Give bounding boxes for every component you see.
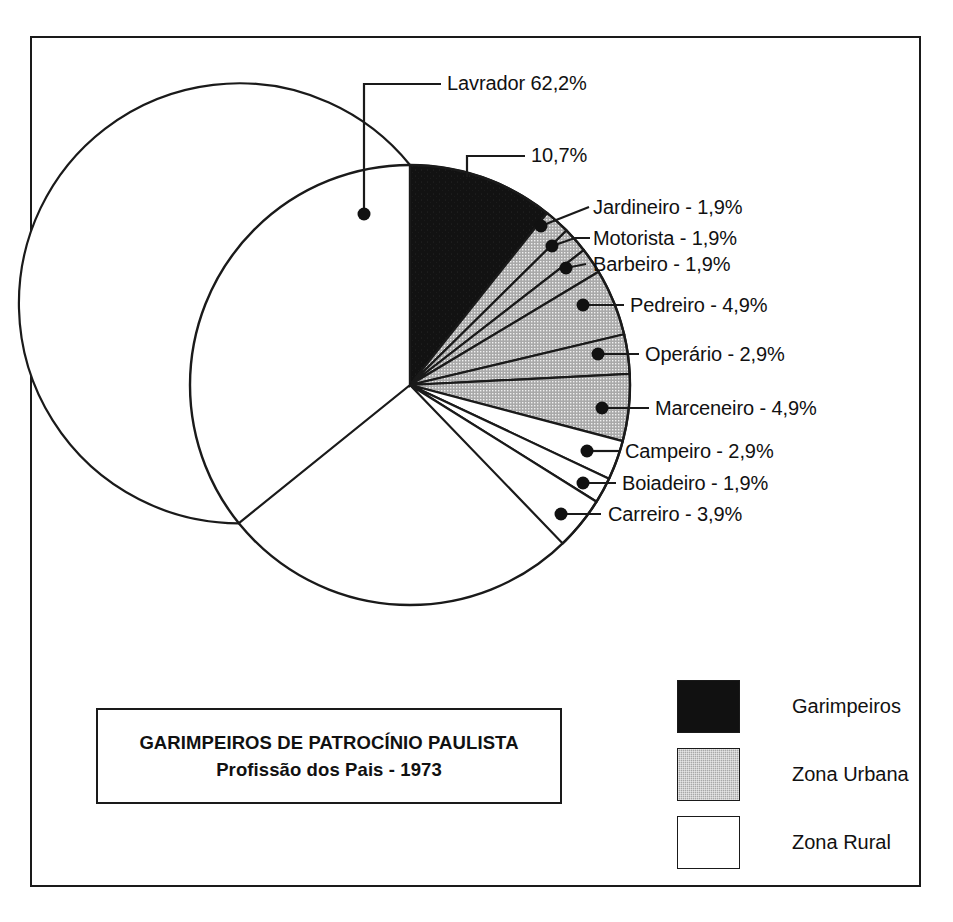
dot-boiadeiro bbox=[577, 477, 590, 490]
label-jardineiro: Jardineiro - 1,9% bbox=[593, 196, 742, 219]
legend-swatch-zona-urbana bbox=[677, 748, 740, 801]
label-lavrador: Lavrador 62,2% bbox=[447, 72, 587, 95]
legend: Garimpeiros Zona Urbana Zona Rural bbox=[677, 672, 909, 876]
dot-operario bbox=[592, 348, 605, 361]
legend-label-garimpeiros: Garimpeiros bbox=[792, 695, 901, 718]
label-pedreiro: Pedreiro - 4,9% bbox=[630, 294, 767, 317]
label-campeiro: Campeiro - 2,9% bbox=[625, 440, 774, 463]
dot-pedreiro bbox=[577, 299, 590, 312]
label-carreiro: Carreiro - 3,9% bbox=[608, 503, 742, 526]
label-garimpeiros-pct: 10,7% bbox=[531, 144, 587, 167]
legend-item-zona-rural[interactable]: Zona Rural bbox=[677, 808, 909, 876]
label-marceneiro: Marceneiro - 4,9% bbox=[655, 397, 817, 420]
title-box: GARIMPEIROS DE PATROCÍNIO PAULISTA Profi… bbox=[96, 708, 562, 804]
label-operario: Operário - 2,9% bbox=[645, 343, 785, 366]
legend-label-zona-rural: Zona Rural bbox=[792, 831, 891, 854]
chart-subtitle: Profissão dos Pais - 1973 bbox=[216, 759, 442, 781]
slice-lavrador[interactable] bbox=[19, 83, 410, 523]
legend-label-zona-urbana: Zona Urbana bbox=[792, 763, 909, 786]
dot-lavrador bbox=[358, 208, 371, 221]
legend-item-zona-urbana[interactable]: Zona Urbana bbox=[677, 740, 909, 808]
dot-carreiro bbox=[555, 508, 568, 521]
legend-swatch-garimpeiros bbox=[677, 680, 740, 733]
dot-motorista bbox=[546, 240, 559, 253]
dot-campeiro bbox=[581, 445, 594, 458]
label-boiadeiro: Boiadeiro - 1,9% bbox=[622, 472, 768, 495]
chart-page: Lavrador 62,2% 10,7% Jardineiro - 1,9% M… bbox=[0, 0, 953, 922]
label-barbeiro: Barbeiro - 1,9% bbox=[593, 253, 730, 276]
chart-title: GARIMPEIROS DE PATROCÍNIO PAULISTA bbox=[139, 732, 518, 754]
label-motorista: Motorista - 1,9% bbox=[593, 227, 737, 250]
dot-jardineiro bbox=[535, 220, 548, 233]
legend-swatch-zona-rural bbox=[677, 816, 740, 869]
legend-item-garimpeiros[interactable]: Garimpeiros bbox=[677, 672, 909, 740]
dot-barbeiro bbox=[560, 262, 573, 275]
dot-marceneiro bbox=[596, 402, 609, 415]
